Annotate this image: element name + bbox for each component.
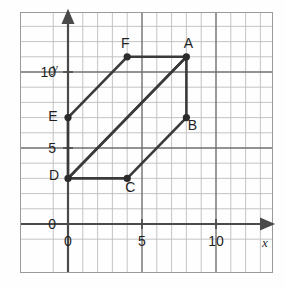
point-label-d: D — [49, 167, 59, 183]
x-tick-label-5: 5 — [138, 233, 146, 249]
point-label-b: B — [188, 117, 197, 133]
y-tick-label-5: 5 — [48, 140, 56, 156]
plot-area-border — [21, 13, 273, 273]
y-origin-label: 0 — [48, 216, 56, 232]
data-point-e — [64, 114, 71, 121]
y-axis-label: y — [50, 60, 58, 75]
data-point-f — [124, 53, 131, 60]
x-tick-label-10: 10 — [208, 233, 224, 249]
x-tick-label-0: 0 — [64, 233, 72, 249]
x-axis-label: x — [261, 235, 268, 250]
data-point-a — [183, 53, 190, 60]
point-label-a: A — [184, 35, 194, 51]
coordinate-graph-svg: ABCDEF05105100yx — [0, 0, 285, 287]
point-label-c: C — [125, 179, 135, 195]
data-point-d — [64, 175, 71, 182]
point-label-e: E — [48, 108, 57, 124]
coordinate-graph-figure: ABCDEF05105100yx — [0, 0, 285, 287]
point-label-f: F — [121, 35, 130, 51]
